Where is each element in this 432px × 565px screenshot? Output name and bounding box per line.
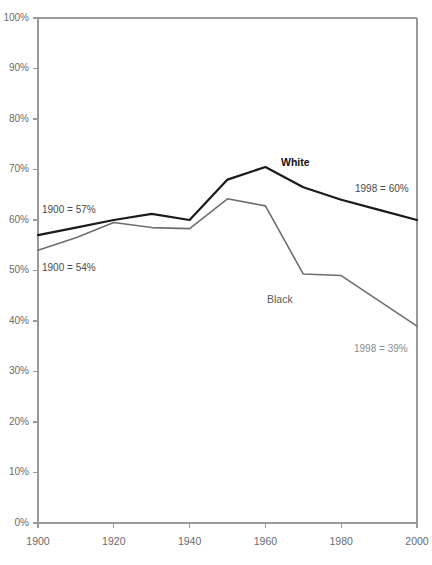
- annotations-group: 1900 = 57%1900 = 54%1998 = 60%1998 = 39%: [42, 183, 409, 354]
- annotation-white-start: 1900 = 57%: [42, 204, 96, 215]
- y-axis-tick-label: 40%: [9, 315, 29, 326]
- y-axis-tick-label: 50%: [9, 264, 29, 275]
- y-axis-tick-label: 0%: [15, 517, 30, 528]
- y-axis: 0%10%20%30%40%50%60%70%80%90%100%: [3, 12, 38, 528]
- x-axis-tick-label: 1920: [102, 535, 126, 547]
- y-axis-tick-label: 10%: [9, 466, 29, 477]
- x-axis-tick-label: 1980: [330, 535, 354, 547]
- white-series-label: White: [281, 156, 310, 168]
- x-axis-tick-label: 1900: [26, 535, 50, 547]
- x-axis-tick-label: 1940: [178, 535, 202, 547]
- x-axis: 190019201940196019802000: [26, 523, 429, 547]
- y-axis-tick-label: 30%: [9, 365, 29, 376]
- y-axis-tick-label: 90%: [9, 62, 29, 73]
- annotation-black-end: 1998 = 39%: [354, 343, 408, 354]
- y-axis-tick-label: 20%: [9, 416, 29, 427]
- x-axis-tick-label: 1960: [254, 535, 278, 547]
- black-series-label: Black: [267, 293, 293, 305]
- annotation-white-end: 1998 = 60%: [355, 183, 409, 194]
- y-axis-tick-label: 70%: [9, 163, 29, 174]
- annotation-black-start: 1900 = 54%: [42, 262, 96, 273]
- x-axis-tick-label: 2000: [405, 535, 429, 547]
- line-chart: 0%10%20%30%40%50%60%70%80%90%100% 190019…: [0, 0, 432, 565]
- y-axis-tick-label: 60%: [9, 214, 29, 225]
- y-axis-tick-label: 80%: [9, 113, 29, 124]
- chart-container: 0%10%20%30%40%50%60%70%80%90%100% 190019…: [0, 0, 432, 565]
- y-axis-tick-label: 100%: [3, 12, 29, 23]
- series-line-white: [38, 167, 417, 235]
